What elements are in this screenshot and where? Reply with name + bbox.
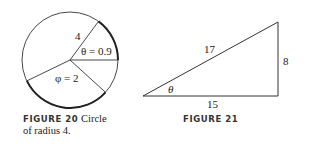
figure20-caption: FIGURE 20 Circle of radius 4. (23, 113, 107, 137)
hypotenuse-label: 17 (204, 43, 216, 55)
angle-label: θ (168, 83, 174, 95)
theta-label: θ = 0.9 (81, 45, 112, 57)
figure20-caption-line1: Circle (81, 113, 107, 124)
triangle-diagram: 17 8 15 θ (143, 22, 289, 110)
circle-diagram: 4 θ = 0.9 φ = 2 (22, 12, 118, 108)
figure20-caption-line2: of radius 4. (23, 125, 71, 136)
adjacent-label: 15 (207, 98, 219, 110)
opposite-label: 8 (283, 55, 289, 67)
figure20-label: FIGURE 20 (23, 114, 78, 124)
figure21-label: FIGURE 21 (183, 114, 238, 124)
figure21-caption: FIGURE 21 (183, 113, 238, 125)
radius-label: 4 (75, 30, 81, 42)
phi-label: φ = 2 (55, 72, 79, 84)
